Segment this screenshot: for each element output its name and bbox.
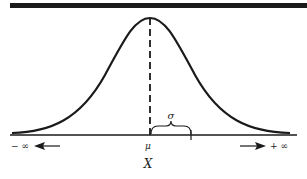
sigma-label: σ xyxy=(168,110,176,121)
sigma-brace xyxy=(151,121,191,134)
pos-infinity-label: + ∞ xyxy=(270,141,288,151)
bell-curve xyxy=(12,18,290,133)
right-arrow-icon xyxy=(240,142,266,150)
normal-curve-diagram: σ μ X − ∞ + ∞ xyxy=(0,0,307,179)
left-arrow-icon xyxy=(34,142,60,150)
mean-label: μ xyxy=(145,141,151,151)
top-border-bar xyxy=(10,3,307,8)
axis-variable-label: X xyxy=(143,157,153,171)
neg-infinity-label: − ∞ xyxy=(11,141,29,151)
